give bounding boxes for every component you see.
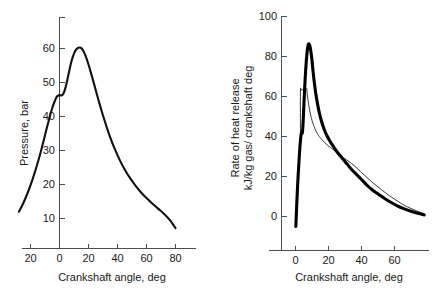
heat-release-measured-curve <box>296 44 424 227</box>
heat-y-ticklabel: 80 <box>265 50 277 62</box>
heat-y-axis-title-line2: kJ/kg gas/ crankshaft deg <box>242 66 254 191</box>
pressure-x-ticklabel: 40 <box>111 252 123 264</box>
heat-y-ticklabel: 0 <box>271 210 277 222</box>
heat-x-ticklabel: 0 <box>292 254 298 266</box>
pressure-x-ticklabel: 0 <box>56 252 62 264</box>
heat-y-ticklabel: 60 <box>265 90 277 102</box>
pressure-y-ticklabel: 50 <box>43 76 55 88</box>
pressure-x-ticklabels: 20 0 20 40 60 80 <box>24 252 181 264</box>
pressure-x-ticklabel: 20 <box>24 252 36 264</box>
pressure-y-ticklabel: 10 <box>43 212 55 224</box>
pressure-curve <box>19 47 176 228</box>
chart-panel-heat-release: 100 80 60 40 20 0 0 20 40 60 Cranks <box>221 0 442 294</box>
figure-container: 60 50 40 30 20 10 20 0 20 40 6 <box>0 0 442 294</box>
heat-x-axis-title: Crankshaft angle, deg <box>295 271 403 283</box>
pressure-chart-svg: 60 50 40 30 20 10 20 0 20 40 6 <box>0 0 221 294</box>
heat-x-ticks <box>296 246 395 251</box>
pressure-x-ticklabel: 60 <box>140 252 152 264</box>
heat-y-ticks <box>282 17 287 217</box>
pressure-x-ticklabel: 20 <box>82 252 94 264</box>
pressure-x-ticklabel: 80 <box>169 252 181 264</box>
pressure-y-ticklabel: 60 <box>43 42 55 54</box>
heat-release-chart-svg: 100 80 60 40 20 0 0 20 40 60 Cranks <box>221 0 442 294</box>
pressure-y-ticklabel: 30 <box>43 144 55 156</box>
heat-x-ticklabel: 60 <box>388 254 400 266</box>
pressure-x-ticks <box>31 244 176 249</box>
pressure-x-axis-title: Crankshaft angle, deg <box>58 271 166 283</box>
pressure-y-axis-title: Pressure, bar <box>18 100 30 166</box>
pressure-y-ticklabel: 20 <box>43 178 55 190</box>
heat-x-ticklabel: 20 <box>322 254 334 266</box>
heat-y-axis-title-line1: Rate of heat release <box>229 78 241 177</box>
pressure-y-ticks <box>60 49 65 219</box>
heat-x-ticklabel: 40 <box>355 254 367 266</box>
heat-y-ticklabel: 100 <box>259 10 277 22</box>
chart-panel-pressure: 60 50 40 30 20 10 20 0 20 40 6 <box>0 0 221 294</box>
heat-y-ticklabel: 20 <box>265 170 277 182</box>
heat-x-ticklabels: 0 20 40 60 <box>292 254 400 266</box>
heat-y-ticklabel: 40 <box>265 130 277 142</box>
heat-y-ticklabels: 100 80 60 40 20 0 <box>259 10 277 222</box>
